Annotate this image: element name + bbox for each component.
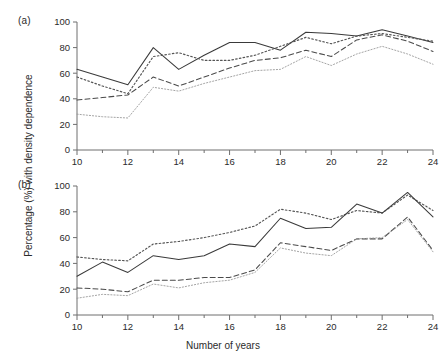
y-tick-label: 40 bbox=[59, 258, 70, 269]
plot-area: 0204060801001012141618202224 02040608010… bbox=[0, 0, 446, 360]
x-tick-label: 24 bbox=[428, 321, 439, 332]
x-tick-label: 14 bbox=[173, 156, 184, 167]
x-tick-label: 18 bbox=[275, 321, 286, 332]
x-tick-label: 22 bbox=[377, 321, 388, 332]
x-tick-label: 12 bbox=[123, 321, 134, 332]
panel-a-plot: 0204060801001012141618202224 bbox=[54, 16, 438, 167]
figure-container: (a) (b) Percentage (%) with density depe… bbox=[0, 0, 446, 360]
y-tick-label: 60 bbox=[59, 68, 70, 79]
y-tick-label: 20 bbox=[59, 119, 70, 130]
y-tick-label: 20 bbox=[59, 284, 70, 295]
x-tick-label: 14 bbox=[173, 321, 184, 332]
x-tick-label: 20 bbox=[326, 156, 337, 167]
x-tick-label: 12 bbox=[123, 156, 134, 167]
x-tick-label: 10 bbox=[72, 156, 83, 167]
x-tick-label: 10 bbox=[72, 321, 83, 332]
series-line-dashed bbox=[77, 217, 433, 292]
series-line-fine-dotted bbox=[77, 46, 433, 118]
y-axis-label: Percentage (%) with density dependence bbox=[23, 66, 34, 266]
x-axis-label: Number of years bbox=[0, 340, 446, 351]
y-tick-label: 80 bbox=[59, 42, 70, 53]
y-tick-label: 0 bbox=[65, 309, 70, 320]
y-tick-label: 100 bbox=[54, 180, 70, 191]
y-tick-label: 100 bbox=[54, 16, 70, 27]
panel-a-label: (a) bbox=[18, 15, 31, 26]
panel-b-plot: 0204060801001012141618202224 bbox=[54, 180, 438, 332]
x-tick-label: 16 bbox=[224, 321, 235, 332]
x-tick-label: 22 bbox=[377, 156, 388, 167]
x-tick-label: 16 bbox=[224, 156, 235, 167]
y-tick-label: 40 bbox=[59, 93, 70, 104]
x-tick-label: 20 bbox=[326, 321, 337, 332]
y-tick-label: 80 bbox=[59, 206, 70, 217]
y-tick-label: 60 bbox=[59, 232, 70, 243]
x-tick-label: 24 bbox=[428, 156, 439, 167]
series-line-dotted bbox=[77, 195, 433, 261]
x-tick-label: 18 bbox=[275, 156, 286, 167]
series-line-solid bbox=[77, 30, 433, 85]
series-line-solid bbox=[77, 192, 433, 276]
y-tick-label: 0 bbox=[65, 144, 70, 155]
